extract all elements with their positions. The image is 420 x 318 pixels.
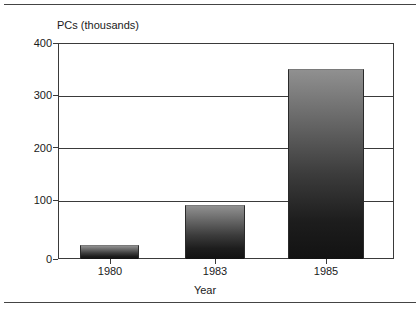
ytick-label-100: 100 — [34, 195, 52, 206]
plot-area-frame — [58, 43, 394, 259]
ytick-label-400: 400 — [34, 38, 52, 49]
ytick-mark-400 — [53, 43, 58, 44]
bar-chart-figure: PCs (thousands) 400 300 200 100 0 1980 1… — [0, 0, 420, 318]
chart-title: PCs (thousands) — [57, 19, 139, 32]
xtick-mark-1985 — [326, 259, 327, 264]
x-axis-tick-labels: 1980 1983 1985 — [58, 265, 394, 281]
y-axis-tick-labels: 400 300 200 100 0 — [0, 0, 52, 318]
gridline-100 — [59, 201, 393, 202]
ytick-mark-0 — [53, 259, 58, 260]
xtick-label-1980: 1980 — [98, 265, 122, 278]
xtick-label-1985: 1985 — [314, 265, 338, 278]
ytick-label-200: 200 — [34, 143, 52, 154]
ytick-mark-100 — [53, 200, 58, 201]
x-axis-title-text: Year — [194, 284, 216, 296]
ytick-label-0: 0 — [46, 254, 52, 265]
xtick-label-1983: 1983 — [203, 265, 227, 278]
gridline-200 — [59, 148, 393, 149]
x-axis-title: Year — [0, 284, 420, 297]
ytick-label-300: 300 — [34, 90, 52, 101]
ytick-mark-200 — [53, 147, 58, 148]
xtick-mark-1983 — [215, 259, 216, 264]
xtick-mark-1980 — [110, 259, 111, 264]
ytick-mark-300 — [53, 95, 58, 96]
bottom-divider-rule — [4, 302, 416, 303]
gridline-300 — [59, 96, 393, 97]
top-divider-rule — [4, 4, 416, 5]
